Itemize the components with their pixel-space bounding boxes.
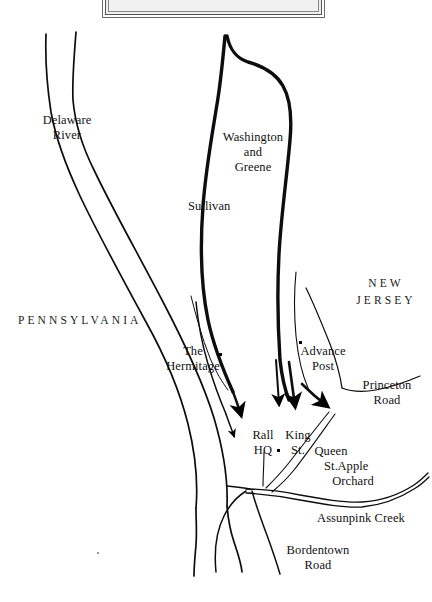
label-apple-orchard: Apple Orchard	[325, 459, 381, 489]
bordentown-road-line1: Bordentown	[280, 543, 356, 558]
label-rall-hq: Rall HQ	[246, 428, 280, 458]
label-sullivan: Sullivan	[188, 199, 230, 214]
washington-greene-line3: Greene	[210, 160, 296, 175]
delaware-river-east-bank-lower	[227, 506, 242, 572]
the-hermitage-marker-icon	[219, 353, 222, 356]
label-assunpink-creek: Assunpink Creek	[317, 511, 405, 526]
delaware-river-east-bank	[73, 32, 227, 506]
rall-hq-line1: Rall	[246, 428, 280, 443]
arrow-sullivan-inner	[226, 414, 234, 436]
delaware-river-west-bank-lower	[194, 508, 196, 576]
greene-east-column	[227, 36, 291, 400]
delaware-river-line1: Delaware	[28, 113, 106, 128]
the-hermitage-line1: The	[164, 344, 222, 359]
label-delaware-river: Delaware River	[28, 113, 106, 143]
washington-greene-line1: Washington	[210, 130, 296, 145]
bordentown-road-line2: Road	[280, 558, 356, 573]
advance-post-marker-icon	[299, 341, 302, 344]
princeton-road-line2: Road	[356, 393, 418, 408]
apple-orchard-line2: Orchard	[325, 474, 381, 489]
rall-hq-line2: HQ	[246, 443, 280, 458]
label-new-jersey: NEW JERSEY	[345, 275, 427, 309]
advance-post-line2: Post	[294, 359, 352, 374]
label-advance-post: Advance Post	[294, 344, 352, 374]
king-street-line1: King	[282, 428, 314, 443]
queen-street-line1: Queen	[308, 444, 354, 459]
washington-greene-line2: and	[210, 145, 296, 160]
new-jersey-line2: JERSEY	[345, 292, 427, 309]
bordentown-road-line	[252, 491, 280, 574]
label-washington-and-greene: Washington and Greene	[210, 130, 296, 175]
the-hermitage-line2: Hermitage	[164, 359, 222, 374]
washington-greene-column	[201, 36, 233, 392]
label-pennsylvania: PENNSYLVANIA	[18, 314, 141, 326]
delaware-river-west-bank	[46, 34, 197, 508]
map-title-box	[105, 0, 322, 15]
scan-speck	[97, 552, 99, 554]
label-the-hermitage: The Hermitage	[164, 344, 222, 374]
arrow-greene-left	[233, 392, 241, 415]
map-title-text	[108, 0, 319, 12]
trenton-junction-road	[227, 486, 250, 489]
rall-hq-marker-icon	[277, 449, 280, 452]
arrow-east-flank	[302, 384, 327, 406]
trenton-battle-map: Delaware River Washington and Greene Sul…	[0, 0, 432, 602]
arrow-center-left	[276, 360, 279, 404]
apple-orchard-line1: Apple	[325, 459, 381, 474]
princeton-road-line1: Princeton	[356, 378, 418, 393]
delaware-river-line2: River	[28, 128, 106, 143]
new-jersey-line1: NEW	[345, 275, 427, 292]
advance-post-line1: Advance	[294, 344, 352, 359]
label-princeton-road: Princeton Road	[356, 378, 418, 408]
label-bordentown-road: Bordentown Road	[280, 543, 356, 573]
